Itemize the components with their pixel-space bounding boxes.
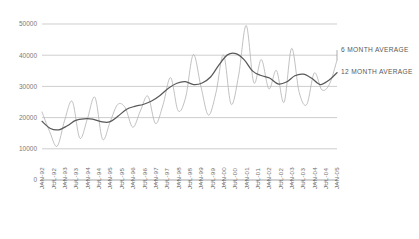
y-axis-tick-label: 50000	[19, 20, 37, 27]
x-axis-tick-label: JUL-94	[95, 167, 102, 189]
x-axis-tick-label: JUL-02	[277, 167, 284, 189]
x-axis-tick-label: JUL-04	[322, 167, 329, 189]
series-line-12-month-average	[42, 53, 337, 130]
y-axis-tick-label: 30000	[19, 83, 37, 90]
x-axis-tick-label: JAN-02	[265, 167, 272, 189]
x-axis-tick-label: JAN-99	[197, 167, 204, 189]
x-axis-tick-label: JAN-97	[152, 167, 159, 189]
x-axis-tick-label: JUL-92	[50, 167, 57, 189]
y-axis-labels: 01000020000300004000050000	[19, 20, 37, 183]
x-axis-tick-label: JUL-03	[299, 167, 306, 189]
x-axis-tick-label: JAN-00	[220, 167, 227, 189]
x-axis-tick-label: JAN-94	[84, 167, 91, 189]
y-axis-tick-label: 0	[33, 176, 37, 183]
x-axis-tick-label: JUL-98	[186, 167, 193, 189]
x-axis-tick-label: JAN-92	[38, 167, 45, 189]
y-axis-tick-label: 10000	[19, 145, 37, 152]
x-axis-tick-label: JUL-93	[72, 167, 79, 189]
y-axis-tick-label: 20000	[19, 114, 37, 121]
x-axis-tick-label: JUL-99	[209, 167, 216, 189]
gridlines	[42, 24, 337, 149]
x-axis-tick-label: JAN-04	[311, 167, 318, 189]
x-axis-tick-label: JUL-00	[231, 167, 238, 189]
x-axis-tick-label: JUL-01	[254, 167, 261, 189]
legend-label-6-month-average: 6 MONTH AVERAGE	[341, 46, 409, 53]
legend: 6 MONTH AVERAGE12 MONTH AVERAGE	[341, 46, 413, 75]
y-axis-tick-label: 40000	[19, 52, 37, 59]
x-axis-tick-label: JAN-93	[61, 167, 68, 189]
data-series	[42, 26, 337, 147]
chart-canvas: 01000020000300004000050000 6 MONTH AVERA…	[0, 0, 419, 239]
x-axis-tick-label: JAN-03	[288, 167, 295, 189]
x-axis-tick-label: JAN-01	[243, 167, 250, 189]
x-axis-tick-label: JAN-05	[333, 167, 340, 189]
series-line-6-month-average	[42, 26, 337, 147]
x-axis-tick-label: JAN-96	[129, 167, 136, 189]
legend-label-12-month-average: 12 MONTH AVERAGE	[341, 68, 413, 75]
x-axis-tick-label: JAN-98	[175, 167, 182, 189]
line-chart: 01000020000300004000050000 6 MONTH AVERA…	[0, 0, 419, 239]
x-axis-tick-label: JUL-96	[141, 167, 148, 189]
x-axis-tick-label: JUL-97	[163, 167, 170, 189]
x-axis-labels: JAN-92JUL-92JAN-93JUL-93JAN-94JUL-94JAN-…	[38, 167, 340, 189]
x-axis-tick-label: JUL-95	[118, 167, 125, 189]
x-axis-tick-label: JAN-95	[106, 167, 113, 189]
